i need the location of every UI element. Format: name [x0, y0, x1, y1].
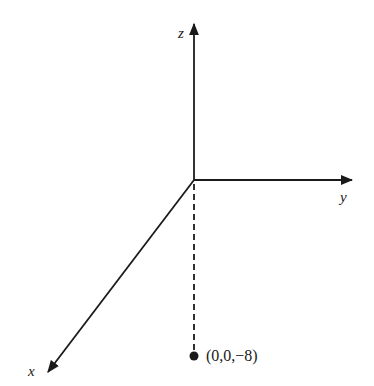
x-axis-label: x — [27, 363, 35, 379]
point-label: (0,0,−8) — [206, 347, 258, 365]
y-axis-label: y — [338, 189, 347, 205]
z-axis-label: z — [177, 25, 184, 41]
diagram-svg: z y x (0,0,−8) — [0, 0, 374, 386]
coordinate-diagram: z y x (0,0,−8) — [0, 0, 374, 386]
x-axis — [48, 180, 194, 372]
point-marker — [190, 352, 199, 361]
